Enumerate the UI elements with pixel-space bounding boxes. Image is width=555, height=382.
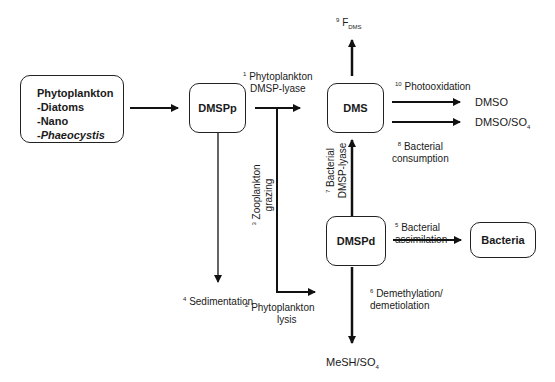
label-process-9-fdms: 9 FDMS (336, 14, 362, 33)
bacteria-box: Bacteria (470, 222, 536, 258)
label-process-10: 10 Photooxidation (395, 78, 471, 93)
phytoplankton-title: Phytoplankton (37, 86, 123, 100)
phytoplankton-box: Phytoplankton -Diatoms -Nano -Phaeocysti… (20, 75, 124, 143)
dms-box: DMS (327, 83, 384, 133)
label-process-3: 3 Zooplanktongrazing (248, 135, 275, 255)
label-process-4: 4 Sedimentation (183, 293, 253, 308)
label-process-7: 7 BacterialDMSP-lyase (322, 133, 349, 208)
label-process-2: 2 Phytoplanktonlysis (245, 299, 315, 326)
phytoplankton-item-phaeocystis: -Phaeocystis (37, 128, 123, 142)
product-mesh-so4: MeSH/SO4 (326, 356, 379, 373)
product-dmso: DMSO (475, 96, 508, 108)
dmspd-box: DMSPd (326, 216, 386, 266)
label-process-6: 6 Demethylation/demetiolation (370, 285, 443, 312)
phytoplankton-item-diatoms: -Diatoms (37, 100, 123, 114)
phytoplankton-item-nano: -Nano (37, 114, 123, 128)
label-process-8: 8 Bacterialconsumption (392, 138, 449, 165)
arrow-grazing-lysis-to-dmspd (277, 108, 315, 292)
label-process-5: 5 Bacterialassimilation (395, 219, 447, 246)
dmspp-box: DMSPp (189, 83, 246, 133)
product-dmso-so4: DMSO/SO4 (475, 116, 530, 133)
label-process-1: 1 PhytoplanktonDMSP-lyase (243, 68, 313, 95)
